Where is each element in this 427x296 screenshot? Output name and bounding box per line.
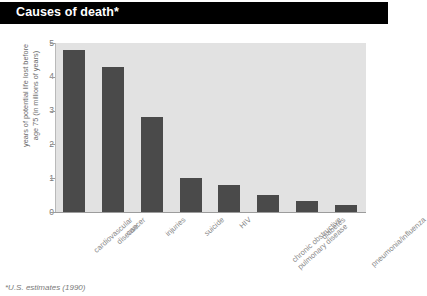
bar: [257, 195, 279, 212]
x-tick-label-line: suicide: [203, 216, 226, 238]
x-tick-label-line: pneumonia/influenza: [370, 216, 427, 269]
bar: [180, 178, 202, 212]
y-tick-mark: [50, 43, 55, 44]
bar: [102, 67, 124, 212]
y-axis-title: years of potential life lost before age …: [21, 6, 40, 186]
y-tick-mark: [50, 178, 55, 179]
x-axis-line: [54, 212, 366, 213]
bar: [63, 50, 85, 212]
bar: [296, 201, 318, 212]
y-axis-title-line-2: age 75 (in millions of years): [30, 6, 40, 186]
bar: [335, 205, 357, 212]
footnote: *U.S. estimates (1990): [5, 283, 85, 292]
bar-chart-figure: years of potential life lost before age …: [0, 24, 388, 296]
bar: [218, 185, 240, 212]
title-bar: Causes of death*: [0, 2, 388, 24]
x-tick-label: injuries: [164, 216, 188, 238]
x-tick-label: HIV: [239, 216, 254, 231]
y-tick-mark: [50, 212, 55, 213]
y-tick-mark: [50, 111, 55, 112]
y-tick-mark: [50, 77, 55, 78]
x-tick-label-line: HIV: [239, 216, 254, 231]
y-axis-title-line-1: years of potential life lost before: [21, 6, 31, 186]
y-tick-mark: [50, 144, 55, 145]
bar: [141, 117, 163, 212]
x-tick-label: pneumonia/influenza: [370, 216, 427, 269]
x-tick-label-line: injuries: [164, 216, 188, 238]
x-tick-label: suicide: [203, 216, 226, 238]
